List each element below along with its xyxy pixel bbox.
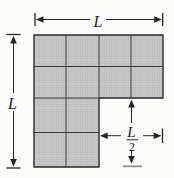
notch-dimension-label: L 2 (126, 124, 138, 154)
arrow-left-icon (36, 16, 44, 23)
left-dimension-label: L (7, 95, 17, 112)
l-shape-dimension-diagram: L L L (0, 0, 174, 178)
arrow-right-icon (154, 132, 162, 139)
arrow-up-icon (128, 100, 135, 108)
l-shape-plate (34, 35, 163, 167)
arrow-down-icon (128, 156, 135, 164)
arrow-right-icon (154, 16, 162, 23)
dimension-left: L (7, 35, 21, 169)
top-dimension-label: L (93, 13, 103, 30)
arrow-down-icon (10, 159, 17, 167)
notch-fraction-denominator: 2 (129, 140, 135, 154)
figure-canvas: L L L (0, 0, 174, 178)
arrow-up-icon (10, 36, 17, 44)
arrow-left-icon (100, 132, 108, 139)
notch-fraction-numerator: L (126, 124, 135, 140)
dimension-top: L (35, 13, 163, 30)
